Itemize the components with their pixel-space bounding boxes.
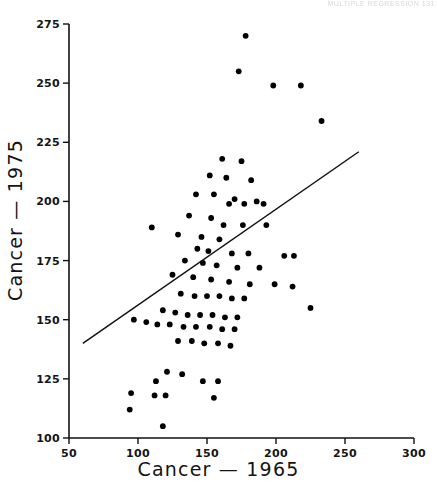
scatter-point <box>182 258 188 264</box>
scatter-point <box>192 293 198 299</box>
scatter-point <box>152 393 158 399</box>
scatter-point <box>215 378 221 384</box>
scatter-point <box>232 326 238 332</box>
y-axis-tick-label: 100 <box>18 432 60 445</box>
scatter-point <box>149 225 155 231</box>
scatter-point <box>243 33 249 39</box>
scatter-point <box>298 83 304 89</box>
scatter-point <box>179 371 185 377</box>
scatter-point <box>219 156 225 162</box>
scatter-point <box>234 314 240 320</box>
scatter-point <box>217 236 223 242</box>
scatter-point <box>211 191 217 197</box>
scatter-point <box>163 393 169 399</box>
scatter-point <box>208 277 214 283</box>
scatter-point <box>193 324 199 330</box>
scatter-point <box>199 234 205 240</box>
scatter-point <box>217 293 223 299</box>
scatter-point <box>226 279 232 285</box>
scatter-point <box>215 340 221 346</box>
scatter-point <box>221 222 227 228</box>
scatter-point <box>207 173 213 179</box>
x-axis-tick-label: 200 <box>264 447 288 460</box>
scatter-point <box>167 322 173 328</box>
scatter-point <box>236 68 242 74</box>
scatter-point <box>246 251 252 257</box>
scatter-point <box>194 246 200 252</box>
y-axis-tick-label: 125 <box>18 372 60 385</box>
scatter-point <box>222 314 228 320</box>
scatter-point <box>281 253 287 259</box>
scatter-point <box>219 326 225 332</box>
scatter-plot-figure: MULTIPLE REGRESSION 131 Cancer — 1975 Ca… <box>0 0 437 495</box>
scatter-point <box>128 390 134 396</box>
scatter-point <box>205 248 211 254</box>
x-axis-tick-label: 250 <box>333 447 357 460</box>
scatter-point <box>189 338 195 344</box>
y-axis-tick-label: 150 <box>18 313 60 326</box>
scatter-point <box>214 262 220 268</box>
scatter-point <box>270 83 276 89</box>
scatter-point <box>272 281 278 287</box>
scatter-point <box>164 369 170 375</box>
x-axis-tick-label: 50 <box>61 447 77 460</box>
scatter-point <box>308 305 314 311</box>
y-axis-ticks <box>63 24 69 438</box>
scatter-point <box>190 274 196 280</box>
scatter-point <box>229 251 235 257</box>
y-axis-tick-label: 175 <box>18 254 60 267</box>
scatter-point <box>181 324 187 330</box>
scatter-point <box>247 281 253 287</box>
scatter-point <box>197 312 203 318</box>
y-axis-tick-label: 225 <box>18 136 60 149</box>
scatter-point <box>127 407 133 413</box>
scatter-point <box>200 260 206 266</box>
y-axis-tick-label: 275 <box>18 18 60 31</box>
x-axis-ticks <box>69 438 414 444</box>
scatter-point <box>223 175 229 181</box>
scatter-point <box>170 272 176 278</box>
scatter-point <box>200 378 206 384</box>
regression-line <box>83 152 359 344</box>
scatter-point <box>211 395 217 401</box>
scatter-point <box>143 319 149 325</box>
scatter-point <box>210 312 216 318</box>
scatter-point <box>229 296 235 302</box>
plot-canvas <box>0 0 437 495</box>
y-axis-tick-label: 250 <box>18 77 60 90</box>
scatter-point <box>254 199 260 205</box>
scatter-point <box>261 201 267 207</box>
scatter-point <box>160 307 166 313</box>
scatter-point <box>131 317 137 323</box>
scatter-point <box>232 196 238 202</box>
scatter-point <box>193 191 199 197</box>
scatter-point <box>248 177 254 183</box>
scatter-point <box>185 312 191 318</box>
y-axis-tick-label: 200 <box>18 195 60 208</box>
scatter-point <box>175 232 181 238</box>
x-axis-tick-label: 100 <box>126 447 150 460</box>
x-axis-tick-label: 300 <box>402 447 426 460</box>
scatter-point <box>240 222 246 228</box>
scatter-point <box>178 291 184 297</box>
data-points <box>127 33 325 429</box>
scatter-point <box>175 338 181 344</box>
scatter-point <box>239 158 245 164</box>
scatter-point <box>263 222 269 228</box>
axes <box>69 24 414 438</box>
scatter-point <box>290 284 296 290</box>
scatter-point <box>226 201 232 207</box>
x-axis-tick-label: 150 <box>195 447 219 460</box>
scatter-point <box>319 118 325 124</box>
scatter-point <box>172 310 178 316</box>
scatter-point <box>207 324 213 330</box>
scatter-point <box>228 343 234 349</box>
scatter-point <box>204 293 210 299</box>
scatter-point <box>234 265 240 271</box>
regression-line-segment <box>83 152 359 344</box>
scatter-point <box>186 213 192 219</box>
scatter-point <box>154 322 160 328</box>
scatter-point <box>201 340 207 346</box>
scatter-point <box>257 265 263 271</box>
scatter-point <box>160 423 166 429</box>
